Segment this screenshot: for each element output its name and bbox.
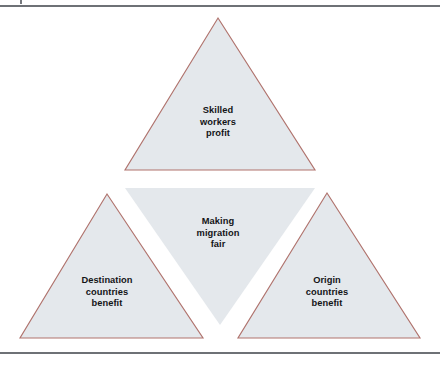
- figure-page: Skilled workers profit Making migration …: [0, 0, 440, 365]
- triangle-diagram-svg: [0, 10, 440, 350]
- page-rule-top: [0, 5, 440, 7]
- triangle-diagram: Skilled workers profit Making migration …: [0, 10, 440, 350]
- page-rule-bottom: [0, 352, 440, 354]
- triangle-top-shape: [125, 18, 315, 170]
- scan-artifact-mark: [20, 0, 22, 4]
